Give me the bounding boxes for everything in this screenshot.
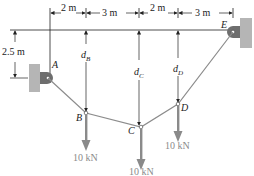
- dD-label: dD: [173, 63, 183, 77]
- dim-label-1: 2 m: [61, 2, 77, 13]
- dim-label-3: 2 m: [150, 2, 166, 13]
- load-label-C: 10 kN: [129, 166, 154, 176]
- point-label-C: C: [128, 125, 135, 136]
- node-C: [139, 125, 143, 129]
- load-label-D: 10 kN: [165, 140, 190, 151]
- point-label-E: E: [220, 19, 227, 30]
- point-label-A: A: [51, 59, 59, 70]
- dim-label-vertical: 2.5 m: [2, 46, 25, 57]
- load-label-B: 10 kN: [73, 152, 98, 163]
- point-label-B: B: [76, 112, 82, 123]
- support-E: [227, 18, 252, 48]
- dim-label-2: 3 m: [102, 7, 118, 18]
- dim-label-4: 3 m: [195, 7, 211, 18]
- node-D: [176, 102, 180, 106]
- point-label-D: D: [180, 102, 189, 113]
- dB-label: dB: [81, 49, 91, 63]
- support-A: [29, 64, 53, 92]
- dC-label: dC: [134, 66, 144, 80]
- node-B: [84, 111, 88, 115]
- cable-diagram: 2 m 3 m 2 m 3 m 2.5 m dB dC dD A E B C D: [0, 0, 254, 176]
